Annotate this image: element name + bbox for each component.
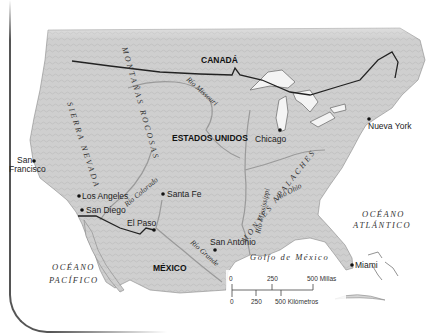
us-map: CANADÁ ESTADOS UNIDOS MÉXICO Chicago Nue… xyxy=(0,0,437,335)
city-label-miami: Miami xyxy=(355,260,378,270)
label-golfo-de-mexico: Golfo de México xyxy=(250,252,329,262)
label-oceano-pacifico-2: PACÍFICO xyxy=(48,275,99,285)
city-label-los-angeles: Los Angeles xyxy=(82,191,128,201)
city-dot-san-diego xyxy=(80,208,84,212)
scale-bar: 0 250 500 Millas 0 250 500 Kilómetros xyxy=(226,270,346,310)
city-dot-los-angeles xyxy=(77,194,81,198)
country-label-usa: ESTADOS UNIDOS xyxy=(172,133,248,143)
scale-miles-500: 500 Millas xyxy=(307,275,337,282)
label-oceano-pacifico-1: OCÉANO xyxy=(52,262,95,272)
country-label-mexico: MÉXICO xyxy=(153,263,187,273)
scale-miles-0: 0 xyxy=(229,275,233,282)
label-oceano-atlantico-2: ATLÁNTICO xyxy=(352,220,411,230)
city-label-santa-fe: Santa Fe xyxy=(167,189,202,199)
city-dot-el-paso xyxy=(152,228,156,232)
city-label-nueva-york: Nueva York xyxy=(368,121,412,131)
city-label-san-diego: San Diego xyxy=(86,205,126,215)
scale-km-250: 250 xyxy=(251,298,262,305)
top-fade xyxy=(0,0,437,40)
city-dot-santa-fe xyxy=(161,192,165,196)
city-dot-san-francisco xyxy=(32,159,36,163)
country-label-canada: CANADÁ xyxy=(201,55,238,65)
city-dot-san-antonio xyxy=(213,248,217,252)
scale-miles-250: 250 xyxy=(267,275,278,282)
city-dot-chicago xyxy=(278,128,282,132)
scale-km-0: 0 xyxy=(230,298,234,305)
city-dot-miami xyxy=(350,263,354,267)
frame-fade xyxy=(50,320,437,335)
city-label-san-francisco-2: Francisco xyxy=(9,164,46,174)
label-oceano-atlantico-1: OCÉANO xyxy=(362,209,405,219)
scale-km-500: 500 Kilómetros xyxy=(275,298,319,305)
city-label-chicago: Chicago xyxy=(255,134,286,144)
city-label-el-paso: El Paso xyxy=(127,218,157,228)
